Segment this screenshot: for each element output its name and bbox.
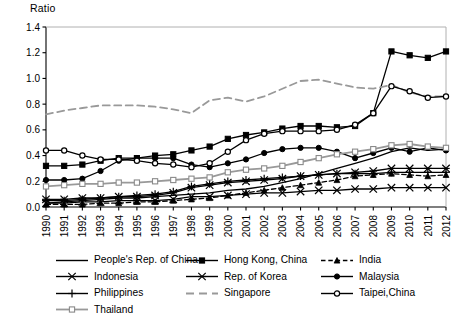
legend-item-taipei-china[interactable]: Taipei,China bbox=[320, 287, 440, 300]
legend-item-malaysia[interactable]: Malaysia bbox=[320, 270, 440, 283]
svg-text:1998: 1998 bbox=[186, 215, 197, 238]
svg-text:1999: 1999 bbox=[204, 215, 215, 238]
svg-text:1991: 1991 bbox=[59, 215, 70, 238]
svg-text:2001: 2001 bbox=[241, 215, 252, 238]
legend-item-label: Rep. of Korea bbox=[224, 272, 287, 282]
legend-swatch-icon bbox=[55, 287, 89, 300]
legend-item-indonesia[interactable]: Indonesia bbox=[0, 270, 185, 283]
svg-text:2006: 2006 bbox=[332, 215, 343, 238]
legend-item-people-s-rep-of-china[interactable]: People's Rep. of China bbox=[0, 254, 185, 267]
legend-swatch-icon bbox=[55, 254, 89, 267]
svg-text:1995: 1995 bbox=[132, 215, 143, 238]
legend-item-india[interactable]: India bbox=[320, 254, 440, 267]
legend-item-label: Thailand bbox=[94, 305, 133, 315]
svg-text:1993: 1993 bbox=[95, 215, 106, 238]
legend-item-label: Indonesia bbox=[94, 272, 138, 282]
svg-text:0.8: 0.8 bbox=[26, 99, 40, 110]
svg-text:2003: 2003 bbox=[277, 215, 288, 238]
svg-text:2005: 2005 bbox=[314, 215, 325, 238]
legend-swatch-icon bbox=[320, 287, 354, 300]
svg-text:2000: 2000 bbox=[223, 215, 234, 238]
legend-item-hong-kong-china[interactable]: Hong Kong, China bbox=[185, 254, 320, 267]
svg-text:1.2: 1.2 bbox=[26, 47, 40, 58]
legend-swatch-icon bbox=[55, 303, 89, 316]
svg-text:0.4: 0.4 bbox=[26, 150, 40, 161]
svg-text:1.0: 1.0 bbox=[26, 73, 40, 84]
legend-row: People's Rep. of ChinaHong Kong, ChinaIn… bbox=[0, 252, 458, 269]
legend-item-label: Taipei,China bbox=[359, 288, 415, 298]
legend-swatch-icon bbox=[185, 254, 219, 267]
svg-text:1.4: 1.4 bbox=[26, 22, 40, 33]
chart-plot-area: 0.00.20.40.60.81.01.21.41990199119921993… bbox=[0, 0, 458, 240]
legend-item-thailand[interactable]: Thailand bbox=[0, 303, 185, 316]
svg-text:2007: 2007 bbox=[350, 215, 361, 238]
legend-swatch-icon bbox=[320, 254, 354, 267]
svg-text:0.6: 0.6 bbox=[26, 124, 40, 135]
legend-item-label: People's Rep. of China bbox=[94, 255, 198, 265]
legend-row: Thailand bbox=[0, 302, 458, 319]
svg-text:1997: 1997 bbox=[168, 215, 179, 238]
legend-item-rep-of-korea[interactable]: Rep. of Korea bbox=[185, 270, 320, 283]
legend-swatch-icon bbox=[320, 270, 354, 283]
svg-text:1994: 1994 bbox=[114, 215, 125, 238]
line-chart-svg: 0.00.20.40.60.81.01.21.41990199119921993… bbox=[0, 0, 458, 240]
svg-text:2002: 2002 bbox=[259, 215, 270, 238]
legend-item-label: India bbox=[359, 255, 381, 265]
svg-text:2008: 2008 bbox=[368, 215, 379, 238]
series-singapore bbox=[46, 80, 446, 115]
svg-text:2011: 2011 bbox=[423, 215, 434, 237]
svg-text:1996: 1996 bbox=[150, 215, 161, 238]
legend-row: PhilippinesSingaporeTaipei,China bbox=[0, 285, 458, 302]
chart-legend: People's Rep. of ChinaHong Kong, ChinaIn… bbox=[0, 252, 458, 321]
legend-item-label: Hong Kong, China bbox=[224, 255, 307, 265]
svg-text:2012: 2012 bbox=[441, 215, 452, 238]
series-hong-kong-china bbox=[43, 49, 448, 169]
svg-text:1990: 1990 bbox=[41, 215, 52, 238]
svg-text:2010: 2010 bbox=[404, 215, 415, 238]
legend-item-label: Malaysia bbox=[359, 272, 399, 282]
svg-text:2009: 2009 bbox=[386, 215, 397, 238]
legend-row: IndonesiaRep. of KoreaMalaysia bbox=[0, 269, 458, 286]
svg-text:1992: 1992 bbox=[77, 215, 88, 238]
svg-text:2004: 2004 bbox=[295, 215, 306, 238]
legend-item-label: Singapore bbox=[224, 288, 270, 298]
legend-item-philippines[interactable]: Philippines bbox=[0, 287, 185, 300]
legend-item-label: Philippines bbox=[94, 288, 143, 298]
legend-swatch-icon bbox=[185, 270, 219, 283]
svg-text:0.0: 0.0 bbox=[26, 202, 40, 213]
legend-item-singapore[interactable]: Singapore bbox=[185, 287, 320, 300]
legend-swatch-icon bbox=[55, 270, 89, 283]
svg-text:0.2: 0.2 bbox=[26, 176, 40, 187]
legend-swatch-icon bbox=[185, 287, 219, 300]
